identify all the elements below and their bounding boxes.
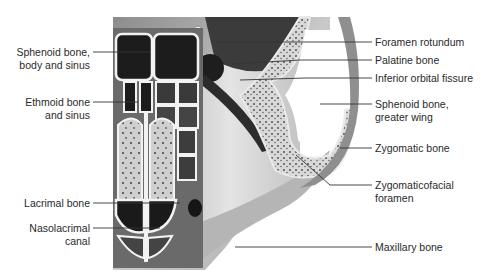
label-line: Zygomaticofacial	[375, 179, 454, 192]
label-palatine: Palatine bone	[375, 54, 439, 67]
label-line: Zygomatic bone	[375, 142, 450, 155]
label-lacrimal: Lacrimal bone	[24, 197, 90, 210]
label-line: and sinus	[25, 109, 90, 122]
label-line: Inferior orbital fissure	[375, 72, 473, 85]
label-line: canal	[29, 235, 90, 248]
label-sphenoid-greater-wing: Sphenoid bone, greater wing	[375, 98, 449, 123]
label-foramen-rotundum: Foramen rotundum	[375, 36, 464, 49]
anatomy-figure: Sphenoid bone, body and sinus Ethmoid bo…	[0, 0, 491, 278]
label-line: Foramen rotundum	[375, 36, 464, 49]
label-zygomatic: Zygomatic bone	[375, 142, 450, 155]
label-line: foramen	[375, 192, 454, 205]
label-line: body and sinus	[16, 59, 90, 72]
label-line: Lacrimal bone	[24, 197, 90, 210]
nasal-ethmoid	[113, 28, 203, 268]
label-line: Maxillary bone	[375, 241, 443, 254]
label-zygomaticofacial: Zygomaticofacial foramen	[375, 179, 454, 204]
label-inferior-orbital-fissure: Inferior orbital fissure	[375, 72, 473, 85]
nasolacrimal-opening	[188, 199, 202, 217]
label-line: Ethmoid bone	[25, 96, 90, 109]
label-ethmoid: Ethmoid bone and sinus	[25, 96, 90, 121]
label-maxillary: Maxillary bone	[375, 241, 443, 254]
label-nasolacrimal: Nasolacrimal canal	[29, 222, 90, 247]
label-line: Sphenoid bone,	[16, 46, 90, 59]
label-line: greater wing	[375, 111, 449, 124]
label-line: Nasolacrimal	[29, 222, 90, 235]
label-line: Palatine bone	[375, 54, 439, 67]
label-line: Sphenoid bone,	[375, 98, 449, 111]
label-sphenoid-body: Sphenoid bone, body and sinus	[16, 46, 90, 71]
